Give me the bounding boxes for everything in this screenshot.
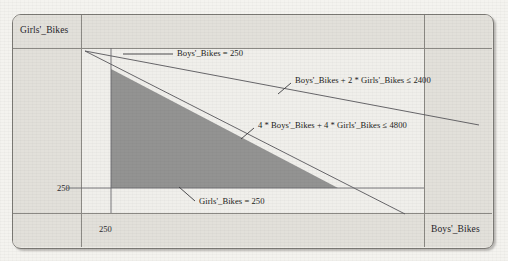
annotation-constraint-2400: Boys'_Bikes + 2 * Girls'_Bikes ≤ 2400 [295, 75, 431, 85]
leader-line-4800 [241, 128, 254, 139]
annotation-constraint-4800: 4 * Boys'_Bikes + 4 * Girls'_Bikes ≤ 480… [258, 120, 407, 130]
annotation-girls-bikes-250: Girls'_Bikes = 250 [199, 196, 265, 206]
plot-graphics [13, 15, 492, 247]
leader-line-girls-250 [179, 187, 195, 201]
leader-line-2400 [278, 83, 291, 94]
figure-root: pendant le tour de une fonction suivant … [0, 0, 508, 261]
figure-frame: Girls'_Bikes Boys'_Bikes 250 250 [12, 14, 494, 249]
annotation-boys-bikes-250: Boys'_Bikes = 250 [177, 48, 243, 58]
